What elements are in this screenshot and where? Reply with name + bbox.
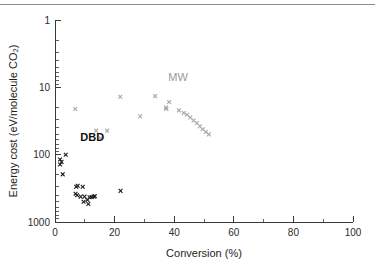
y-tick-label: 10 xyxy=(39,82,51,93)
series-dbd xyxy=(58,153,122,206)
data-point-layer xyxy=(58,94,211,206)
data-point xyxy=(86,202,90,206)
y-axis-minor-ticks xyxy=(55,40,59,219)
data-point xyxy=(81,185,85,189)
y-axis-ticks xyxy=(55,20,61,222)
x-tick-label: 0 xyxy=(52,227,58,238)
y-tick-label: 1000 xyxy=(28,217,51,228)
data-point xyxy=(61,172,65,176)
data-point xyxy=(75,193,79,197)
data-point xyxy=(138,114,142,118)
cluster-label-dbd: DBD xyxy=(80,131,104,143)
cluster-label-mw: MW xyxy=(168,71,188,83)
x-axis-title: Conversion (%) xyxy=(166,247,242,259)
x-tick-label: 100 xyxy=(345,227,362,238)
data-point xyxy=(119,189,123,193)
data-point xyxy=(64,153,68,157)
data-point xyxy=(167,100,171,104)
y-tick-label: 100 xyxy=(33,149,50,160)
axis-frame xyxy=(55,20,353,222)
y-axis-title: Energy cost (eV/molecule CO₂) xyxy=(7,45,19,198)
y-tick-label: 1 xyxy=(44,15,50,26)
x-tick-label: 40 xyxy=(169,227,181,238)
data-point xyxy=(82,200,86,204)
data-point xyxy=(73,107,77,111)
scatter-chart: 1101001000 020406080100 DBDMW Conversion… xyxy=(0,0,375,274)
series-mw xyxy=(153,94,210,136)
x-tick-label: 60 xyxy=(228,227,240,238)
x-axis-tick-labels: 020406080100 xyxy=(52,227,362,238)
data-point xyxy=(207,132,211,136)
x-axis-minor-ticks xyxy=(85,219,323,223)
data-point xyxy=(105,129,109,133)
x-tick-label: 80 xyxy=(288,227,300,238)
y-axis-tick-labels: 1101001000 xyxy=(28,15,51,228)
data-point xyxy=(153,94,157,98)
data-point xyxy=(79,195,83,199)
data-point xyxy=(118,95,122,99)
x-tick-label: 20 xyxy=(109,227,121,238)
data-point xyxy=(177,108,181,112)
cluster-annotation-layer: DBDMW xyxy=(80,71,188,143)
data-point xyxy=(76,184,80,188)
